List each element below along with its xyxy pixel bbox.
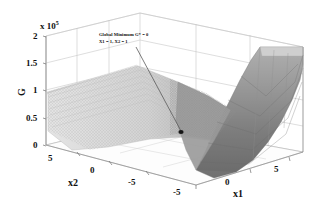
z-tick-0-5: 0.5 xyxy=(26,114,37,123)
z-tick-1: 1 xyxy=(33,86,38,95)
x1-tick-5: 5 xyxy=(274,165,279,174)
z-axis-label: G xyxy=(17,88,27,96)
z-tick-2: 2 xyxy=(33,32,38,41)
z-tick-0: 0 xyxy=(33,141,38,150)
z-axis-ticks xyxy=(43,36,46,146)
global-minimum-marker xyxy=(178,130,183,134)
x1-tick-minus-5: -5 xyxy=(173,188,181,197)
x2-axis-label: x2 xyxy=(68,178,78,188)
surface-plot-svg xyxy=(0,0,311,215)
z-axis-multiplier: x 105 xyxy=(40,20,59,31)
z-tick-1-5: 1.5 xyxy=(26,59,37,68)
global-minimum-annotation-line2: X1 = 1, X2 = 1 xyxy=(99,39,128,46)
global-minimum-annotation-line1: Global Minimum G* = 0 xyxy=(99,32,148,39)
x2-tick-0: 0 xyxy=(90,166,95,175)
figure-canvas: x 105 2 1.5 1 0.5 0 G 5 0 -5 x2 -5 0 5 x… xyxy=(0,0,311,215)
x1-axis-label: x1 xyxy=(233,189,243,199)
x2-tick-5: 5 xyxy=(48,154,53,163)
x2-tick-minus-5: -5 xyxy=(128,178,136,187)
x1-tick-0: 0 xyxy=(225,178,230,187)
